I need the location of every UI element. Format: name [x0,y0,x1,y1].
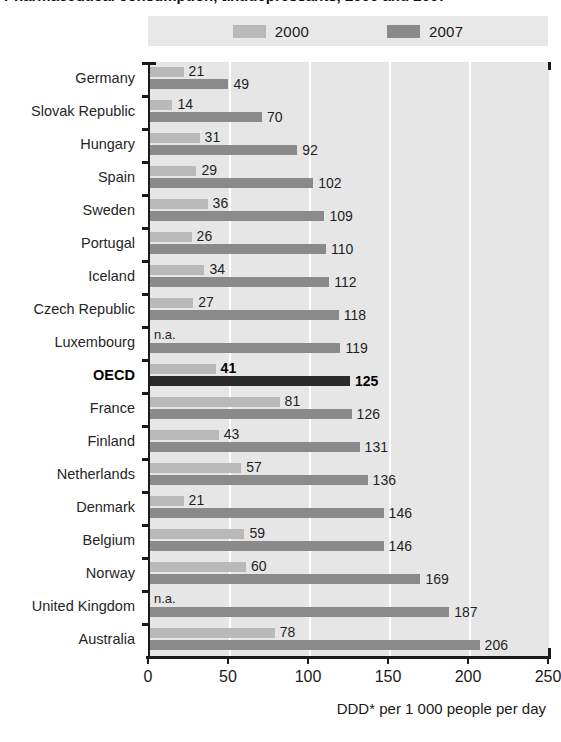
bar-2007-germany [150,79,228,89]
x-axis-tick-250 [547,656,550,664]
value-label-2007-norway: 169 [425,572,448,586]
x-tick-label-250: 250 [535,668,561,686]
category-label-oecd: OECD [93,367,135,383]
bar-row-portugal: 26110 [150,227,550,260]
bar-2000-france [150,397,280,407]
value-label-2000-oecd: 41 [221,361,237,375]
x-tick-label-100: 100 [295,668,322,686]
value-label-2000-denmark: 21 [189,493,205,507]
value-label-2007-sweden: 109 [329,209,352,223]
bar-row-slovak-republic: 1470 [150,95,550,128]
category-tick [142,260,150,263]
bar-2007-czech-republic [150,310,339,320]
value-label-2007-finland: 131 [365,440,388,454]
bar-row-czech-republic: 27118 [150,293,550,326]
category-label-slovak-republic: Slovak Republic [31,103,135,119]
value-label-2007-oecd: 125 [355,374,378,388]
category-label-finland: Finland [87,433,135,449]
bar-2007-spain [150,178,313,188]
bar-2000-germany [150,67,184,77]
category-label-iceland: Iceland [88,268,135,284]
bar-row-netherlands: 57136 [150,458,550,491]
bar-row-spain: 29102 [150,161,550,194]
bar-row-luxembourg: n.a.119 [150,326,550,359]
category-label-netherlands: Netherlands [57,466,135,482]
category-label-luxembourg: Luxembourg [54,334,135,350]
category-label-czech-republic: Czech Republic [33,301,135,317]
value-label-2007-slovak-republic: 70 [267,110,283,124]
bar-2000-finland [150,430,219,440]
bar-2007-australia [150,640,480,650]
bar-2007-oecd [150,376,350,386]
value-label-2000-australia: 78 [280,625,296,639]
category-label-spain: Spain [98,169,135,185]
bar-row-hungary: 3192 [150,128,550,161]
category-tick [142,95,150,98]
bar-2000-iceland [150,265,204,275]
category-tick [142,293,150,296]
bar-2000-oecd [150,364,216,374]
category-tick [142,590,150,593]
bar-2000-sweden [150,199,208,209]
bar-row-sweden: 36109 [150,194,550,227]
value-label-2007-portugal: 110 [331,242,353,256]
bar-2000-netherlands [150,463,241,473]
value-label-2000-belgium: 59 [249,526,265,540]
value-label-2000-norway: 60 [251,559,267,573]
value-label-2007-united-kingdom: 187 [454,605,477,619]
value-label-2000-spain: 29 [201,163,217,177]
bar-row-germany: 2149 [150,62,550,95]
category-tick [142,194,150,197]
bar-2000-belgium [150,529,244,539]
value-label-2000-france: 81 [285,394,301,408]
bar-2000-czech-republic [150,298,193,308]
value-label-2007-spain: 102 [318,176,341,190]
value-label-2007-germany: 49 [233,77,249,91]
value-label-2000-sweden: 36 [213,196,229,210]
bar-2000-hungary [150,133,200,143]
bar-2007-slovak-republic [150,112,262,122]
category-label-france: France [90,400,135,416]
value-label-2000-hungary: 31 [205,130,221,144]
value-label-2007-belgium: 146 [389,539,412,553]
x-axis-tick-200 [467,656,470,664]
plot-area: 2149147031922910236109261103411227118n.a… [148,62,550,656]
bar-row-france: 81126 [150,392,550,425]
category-tick [142,359,150,362]
bar-row-oecd: 41125 [150,359,550,392]
category-tick [142,425,150,428]
bar-2000-australia [150,628,275,638]
x-axis-line [146,656,551,659]
value-label-2007-denmark: 146 [389,506,412,520]
bar-row-norway: 60169 [150,557,550,590]
value-label-2000-united-kingdom: n.a. [154,592,176,606]
bar-row-belgium: 59146 [150,524,550,557]
category-label-belgium: Belgium [83,532,135,548]
category-tick [142,491,150,494]
x-axis-tick-100 [307,656,310,664]
value-label-2007-luxembourg: 119 [345,341,367,355]
category-tick [142,557,150,560]
x-tick-label-50: 50 [219,668,237,686]
category-label-united-kingdom: United Kingdom [32,598,135,614]
category-tick [142,623,150,626]
bar-2007-denmark [150,508,384,518]
bar-2007-norway [150,574,420,584]
value-label-2000-luxembourg: n.a. [154,328,176,342]
value-label-2007-netherlands: 136 [373,473,396,487]
axis-frame-topleft [146,62,156,65]
bar-2000-portugal [150,232,192,242]
x-axis-tick-150 [387,656,390,664]
bar-2007-portugal [150,244,326,254]
category-axis: GermanySlovak RepublicHungarySpainSweden… [0,62,143,656]
value-label-2000-iceland: 34 [209,262,225,276]
bar-2007-hungary [150,145,297,155]
bar-row-iceland: 34112 [150,260,550,293]
value-label-2007-hungary: 92 [302,143,318,157]
value-label-2000-germany: 21 [189,64,205,78]
category-label-hungary: Hungary [80,136,135,152]
category-tick [142,458,150,461]
x-tick-label-200: 200 [455,668,482,686]
bar-row-finland: 43131 [150,425,550,458]
bar-2000-slovak-republic [150,100,172,110]
